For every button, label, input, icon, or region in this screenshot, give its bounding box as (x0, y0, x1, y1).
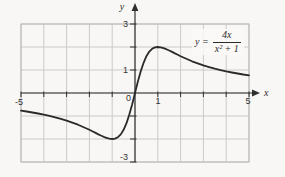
axes (21, 3, 260, 162)
y-axis-letter: y (119, 1, 125, 12)
origin-label: 0 (126, 93, 131, 103)
y-tick-label-neg3: -3 (120, 152, 128, 162)
x-tick-label-neg5: -5 (15, 97, 23, 107)
x-tick-label-5: 5 (245, 96, 250, 106)
equation-label: y = 4x x² + 1 (192, 29, 244, 55)
equation-denominator: x² + 1 (213, 42, 241, 55)
equation-lhs: y = (195, 37, 209, 47)
y-tick-label-3: 3 (123, 19, 128, 29)
x-axis-letter: x (263, 87, 269, 98)
function-graph: y x 3 1 -3 0 -5 1 5 (0, 0, 285, 177)
y-tick-label-1: 1 (123, 65, 128, 75)
equation-fraction: 4x x² + 1 (213, 30, 241, 54)
graph-panel: y x 3 1 -3 0 -5 1 5 y = 4x x² + 1 (0, 0, 285, 177)
equation-numerator: 4x (222, 30, 231, 40)
x-tick-label-1: 1 (155, 96, 160, 106)
